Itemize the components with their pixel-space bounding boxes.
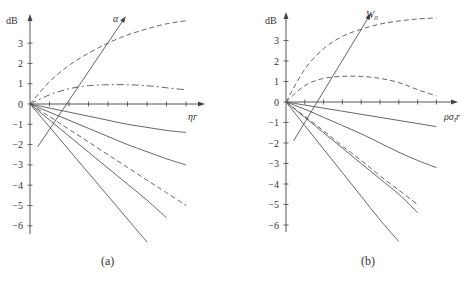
series-solid-3 (30, 104, 167, 218)
panel-a-xlabel: ηr (188, 111, 197, 122)
series-middle-dashed (286, 76, 436, 102)
series-solid-3 (286, 102, 418, 213)
y-tick-label: −6 (268, 220, 279, 231)
y-tick-label: 1 (274, 76, 279, 87)
y-axis-arrow-icon (28, 14, 33, 21)
y-tick-label: 2 (18, 58, 23, 69)
y-tick-label: −2 (12, 139, 23, 150)
y-tick-label: −6 (12, 220, 23, 231)
y-tick-label: 2 (274, 56, 279, 67)
series-dash-dot (30, 85, 186, 104)
panel-a-caption: (a) (101, 254, 114, 268)
y-tick-label: 0 (274, 97, 279, 108)
x-axis-arrow-icon (198, 102, 205, 107)
parameter-arrow (294, 14, 371, 141)
y-tick-label: 3 (18, 38, 23, 49)
y-tick-label: −1 (12, 119, 23, 130)
y-tick-label: −3 (12, 159, 23, 170)
series-solid-4 (286, 102, 399, 241)
y-tick-label: −2 (268, 138, 279, 149)
series-lower-dashed (30, 104, 186, 206)
figure: 3210−1−2−3−4−5−6 3210−1−2−3−4−5−6 dB ηr … (0, 0, 472, 281)
y-tick-label: 1 (18, 78, 23, 89)
series-solid-1 (286, 102, 436, 127)
panel-a-ylabel: dB (6, 15, 18, 26)
y-tick-label: 0 (18, 99, 23, 110)
panel-b-xlabel: ρσIr (443, 111, 460, 124)
panel-b-caption: (b) (361, 254, 375, 268)
y-tick-label: −3 (268, 158, 279, 169)
series-solid-2 (286, 102, 436, 168)
parameter-arrow (38, 17, 126, 147)
series-upper-dashed (30, 21, 186, 104)
panel-a: 3210−1−2−3−4−5−6 (12, 14, 205, 242)
arrowhead-icon (120, 17, 125, 23)
series-solid-1 (30, 104, 186, 132)
y-tick-label: −4 (268, 179, 279, 190)
series-solid-2 (30, 104, 186, 165)
series-upper-dashed (286, 18, 436, 102)
panel-b-ylabel: dB (265, 15, 277, 26)
x-axis-arrow-icon (451, 100, 458, 105)
panel-a-arrow-label: α (113, 13, 119, 24)
y-tick-label: −4 (12, 180, 23, 191)
y-tick-label: −5 (12, 200, 23, 211)
y-tick-label: 3 (274, 35, 279, 46)
panel-b: 3210−1−2−3−4−5−6 (268, 12, 458, 241)
y-axis-arrow-icon (284, 12, 289, 19)
y-tick-label: −1 (268, 117, 279, 128)
panel-b-arrow-label: W0 (366, 9, 378, 22)
y-tick-label: −5 (268, 199, 279, 210)
series-lower-dashed (286, 102, 418, 205)
